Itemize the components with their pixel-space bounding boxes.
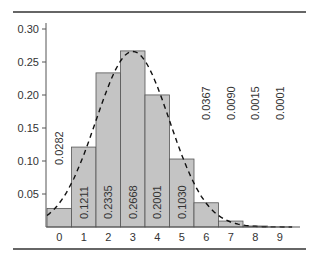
chart: 0.050.100.150.200.250.30 0123456789 0.02…	[0, 0, 322, 261]
value-label: 0.2668	[127, 185, 139, 219]
y-tick-label: 0.10	[18, 155, 39, 167]
x-axis-ticks: 0123456789	[56, 231, 283, 243]
x-tick-label: 5	[179, 231, 185, 243]
value-label: 0.0001	[274, 86, 286, 120]
y-tick-label: 0.05	[18, 188, 39, 200]
x-tick-label: 6	[203, 231, 209, 243]
y-tick-label: 0.25	[18, 56, 39, 68]
x-tick-label: 8	[252, 231, 258, 243]
x-tick-label: 3	[130, 231, 136, 243]
y-tick-label: 0.20	[18, 89, 39, 101]
x-tick-label: 7	[228, 231, 234, 243]
value-label: 0.0015	[249, 86, 261, 120]
x-tick-label: 4	[154, 231, 160, 243]
value-label: 0.2335	[102, 185, 114, 219]
value-label: 0.2001	[151, 185, 163, 219]
y-tick-label: 0.30	[18, 23, 39, 35]
y-axis-ticks: 0.050.100.150.200.250.30	[18, 23, 46, 200]
bar	[47, 208, 72, 227]
value-label: 0.1030	[176, 185, 188, 219]
x-tick-label: 0	[56, 231, 62, 243]
y-tick-label: 0.15	[18, 122, 39, 134]
value-label: 0.1211	[78, 186, 90, 219]
x-tick-label: 1	[81, 231, 87, 243]
x-tick-label: 9	[277, 231, 283, 243]
value-label: 0.0282	[53, 131, 65, 165]
value-label: 0.0090	[225, 86, 237, 120]
bar	[194, 203, 219, 227]
value-label: 0.0367	[200, 86, 212, 120]
x-tick-label: 2	[105, 231, 111, 243]
